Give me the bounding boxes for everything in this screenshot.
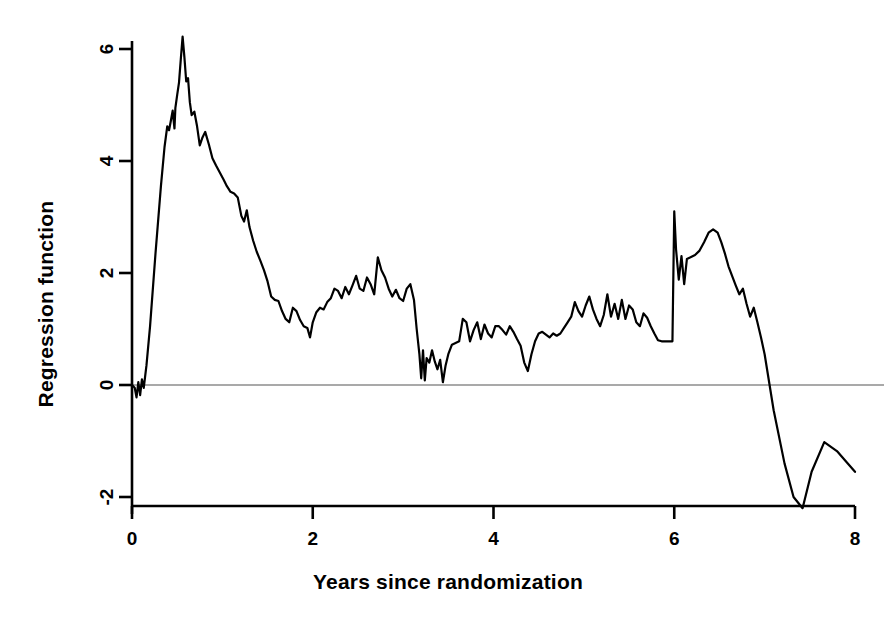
x-tick-label: 2 bbox=[307, 528, 318, 549]
y-tick-label: 0 bbox=[96, 380, 117, 391]
regression-function-line-chart: -20246 02468 bbox=[0, 0, 896, 630]
x-tick-label: 8 bbox=[850, 528, 861, 549]
regression-function-curve bbox=[132, 37, 855, 509]
x-tick-label: 4 bbox=[488, 528, 499, 549]
y-tick-label: 4 bbox=[96, 155, 117, 166]
y-tick-label: 6 bbox=[96, 44, 117, 55]
x-axis-ticks: 02468 bbox=[127, 506, 861, 549]
y-axis-title: Regression function bbox=[34, 174, 58, 434]
x-tick-label: 6 bbox=[669, 528, 680, 549]
y-tick-label: 2 bbox=[96, 268, 117, 279]
x-tick-label: 0 bbox=[127, 528, 138, 549]
x-axis-title: Years since randomization bbox=[0, 570, 896, 594]
y-tick-label: -2 bbox=[96, 489, 117, 506]
y-axis-ticks: -20246 bbox=[96, 44, 133, 506]
chart-figure: -20246 02468 Regression function Years s… bbox=[0, 0, 896, 630]
